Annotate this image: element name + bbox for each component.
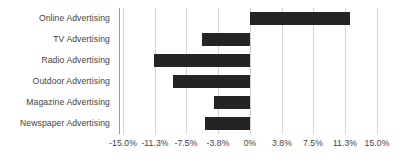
bar-tv-advertising	[202, 33, 250, 46]
gridline-7-5	[313, 8, 314, 134]
bar-radio-advertising	[154, 54, 250, 67]
category-label-newspaper-advertising: Newspaper Advertising	[0, 118, 110, 128]
category-label-outdoor-advertising: Outdoor Advertising	[0, 76, 110, 86]
category-label-tv-advertising: TV Advertising	[0, 34, 110, 44]
gridline-11-3	[345, 8, 346, 134]
tick-label--3-8: -3.8%	[207, 138, 230, 149]
tick-label--15-0: -15.0%	[109, 138, 137, 149]
tick-label-11-3: 11.3%	[333, 138, 357, 149]
tick-label-15-0: 15.0%	[365, 138, 390, 149]
bar-magazine-advertising	[214, 96, 250, 109]
bar-outdoor-advertising	[173, 75, 250, 88]
gridline-3-8	[282, 8, 283, 134]
category-label-radio-advertising: Radio Advertising	[0, 55, 110, 65]
bar-newspaper-advertising	[205, 117, 250, 130]
category-label-online-advertising: Online Advertising	[0, 13, 110, 23]
bar-chart: Online Advertising TV Advertising Radio …	[0, 0, 412, 164]
tick-label-3-8: 3.8%	[272, 138, 292, 149]
category-axis-labels: Online Advertising TV Advertising Radio …	[0, 8, 114, 134]
gridline--7-5	[186, 8, 187, 134]
category-axis-line	[119, 8, 120, 134]
plot-area	[119, 8, 381, 134]
tick-label--11-3: -11.3%	[141, 138, 168, 149]
bar-online-advertising	[250, 12, 350, 25]
tick-label-0: 0%	[244, 138, 257, 149]
tick-label-7-5: 7.5%	[303, 138, 323, 149]
tick-label--7-5: -7.5%	[175, 138, 198, 149]
gridline--15-0	[123, 8, 124, 134]
gridline--3-8	[218, 8, 219, 134]
value-axis-labels: -15.0% -11.3% -7.5% -3.8% 0% 3.8% 7.5% 1…	[0, 138, 412, 152]
gridline-15-0	[377, 8, 378, 134]
category-label-magazine-advertising: Magazine Advertising	[0, 97, 110, 107]
gridline--11-3	[155, 8, 156, 134]
gridline-zero	[250, 8, 251, 134]
